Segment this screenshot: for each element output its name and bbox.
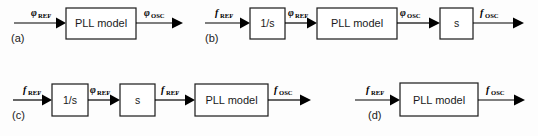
panel-d-input-arrowhead — [390, 95, 400, 106]
panel-b-pll-model-label: PLL model — [331, 17, 383, 29]
panel-a: φ REF PLL model φ OSC (a) — [11, 7, 183, 44]
panel-b-phi-ref-label-subscript: REF — [295, 12, 308, 19]
panel-c-arrowhead-differentiator-to-pll — [185, 95, 195, 106]
panel-c-differentiator-label: s — [135, 94, 140, 106]
panel-d: f REF PLL model f OSC (d) — [355, 83, 525, 121]
panel-b-input-arrowhead — [240, 18, 250, 29]
panel-a-pll-model-label: PLL model — [75, 17, 127, 29]
panel-b-integrator-label: 1/s — [260, 17, 274, 29]
diagram-canvas: φ REF PLL model φ OSC (a) f REF 1/s — [0, 0, 538, 136]
panel-a-id-label: (a) — [11, 32, 24, 44]
panel-c-pll-model-label: PLL model — [205, 94, 257, 106]
panel-c: f REF 1/s φ REF s f REF PLL model f — [12, 84, 311, 121]
panel-d-output-label-subscript: OSC — [491, 89, 505, 96]
panel-d-output-arrowhead — [514, 95, 525, 106]
panel-b-output-label-subscript: OSC — [485, 12, 499, 19]
panel-c-phi-ref-label: φ — [90, 84, 96, 95]
panel-b-id-label: (b) — [205, 32, 218, 44]
panel-b: f REF 1/s φ REF PLL model φ OSC s f — [205, 7, 524, 44]
panel-b-input-label-subscript: REF — [220, 12, 233, 19]
panel-c-id-label: (c) — [12, 109, 25, 121]
panel-b-phi-ref-label: φ — [288, 7, 294, 18]
panel-c-input-label-subscript: REF — [28, 89, 41, 96]
panel-a-input-label-subscript: REF — [38, 12, 51, 19]
panel-c-input-arrowhead — [42, 95, 52, 106]
panel-b-differentiator-label: s — [454, 17, 459, 29]
panel-a-output-label-subscript: OSC — [151, 12, 165, 19]
panel-b-output-arrowhead — [513, 18, 524, 29]
panel-a-output-label: φ — [144, 7, 150, 18]
panel-d-id-label: (d) — [368, 109, 381, 121]
panel-c-arrowhead-integrator-to-differentiator — [110, 95, 120, 106]
panel-c-output-label-subscript: OSC — [279, 89, 293, 96]
panel-a-output-arrowhead — [172, 18, 183, 29]
panel-c-phi-ref-label-subscript: REF — [97, 89, 110, 96]
panel-c-output-arrowhead — [300, 95, 311, 106]
pll-block-diagram-figure: φ REF PLL model φ OSC (a) f REF 1/s — [0, 0, 538, 136]
panel-b-arrowhead-pll-to-differentiator — [429, 18, 440, 29]
panel-d-pll-model-label: PLL model — [413, 94, 465, 106]
panel-d-input-label-subscript: REF — [371, 89, 384, 96]
panel-b-phi-osc-label: φ — [400, 7, 406, 18]
panel-b-phi-osc-label-subscript: OSC — [407, 12, 421, 19]
panel-c-integrator-label: 1/s — [63, 94, 77, 106]
panel-c-f-ref-label-subscript: REF — [166, 89, 179, 96]
panel-b-arrowhead-integrator-to-pll — [307, 18, 317, 29]
panel-a-input-label: φ — [31, 7, 37, 18]
panel-a-input-arrowhead — [56, 18, 66, 29]
